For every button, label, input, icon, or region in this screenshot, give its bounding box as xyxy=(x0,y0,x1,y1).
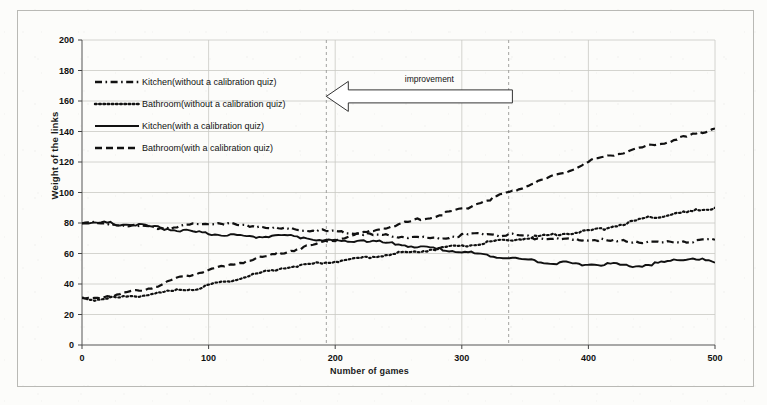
line-chart: 020406080100120140160180200 010020030040… xyxy=(0,0,767,405)
y-tick-label: 20 xyxy=(64,310,74,320)
x-tick-label: 500 xyxy=(707,353,722,363)
legend-label: Kitchen(without a calibration quiz) xyxy=(142,77,277,87)
x-axis-label: Number of games xyxy=(330,366,409,376)
legend-label: Bathroom(without a calibration quiz) xyxy=(142,99,286,109)
y-tick-label: 120 xyxy=(59,157,74,167)
series-line xyxy=(82,208,715,301)
x-tick-label: 400 xyxy=(581,353,596,363)
improvement-arrow-icon xyxy=(326,81,512,111)
chart-figure: 020406080100120140160180200 010020030040… xyxy=(0,0,767,405)
y-tick-label: 40 xyxy=(64,279,74,289)
x-tick-label: 300 xyxy=(454,353,469,363)
improvement-label: improvement xyxy=(405,74,455,84)
y-tick-label: 100 xyxy=(59,188,74,198)
x-tick-label: 100 xyxy=(201,353,216,363)
plot-container: 020406080100120140160180200 010020030040… xyxy=(0,0,767,405)
y-tick-label: 80 xyxy=(64,218,74,228)
y-tick-label: 60 xyxy=(64,249,74,259)
x-tick-label: 200 xyxy=(328,353,343,363)
y-tick-label: 160 xyxy=(59,96,74,106)
y-tick-label: 140 xyxy=(59,127,74,137)
improvement-annotation: improvement xyxy=(326,74,512,111)
y-tick-label: 180 xyxy=(59,66,74,76)
x-axis-ticks: 0100200300400500 xyxy=(79,345,722,363)
y-tick-label: 200 xyxy=(59,35,74,45)
y-axis-label: Weight of the links xyxy=(49,76,60,236)
legend-label: Kitchen(with a calibration quiz) xyxy=(142,121,264,131)
y-tick-label: 0 xyxy=(69,340,74,350)
chart-legend: Kitchen(without a calibration quiz)Bathr… xyxy=(95,77,286,153)
y-axis-ticks: 020406080100120140160180200 xyxy=(59,35,82,350)
legend-label: Bathroom(with a calibration quiz) xyxy=(142,143,273,153)
data-series-group xyxy=(82,128,715,300)
x-tick-label: 0 xyxy=(79,353,84,363)
series-line xyxy=(82,128,715,298)
